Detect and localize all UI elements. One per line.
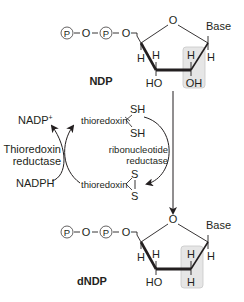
ndp-label: NDP [89, 75, 112, 87]
nadph-label: NADPH [16, 177, 55, 189]
svg-text:H: H [187, 248, 195, 260]
svg-text:P: P [103, 227, 109, 238]
nadp-plus-label: NADP+ [18, 114, 53, 126]
svg-text:H: H [137, 52, 145, 64]
svg-text:P: P [64, 227, 70, 238]
svg-text:H: H [152, 248, 160, 260]
dndp-label: dNDP [77, 275, 107, 287]
sh-bottom: SH [130, 127, 145, 139]
thioredoxin-reductase-line2: reductase [13, 155, 61, 167]
s-top: S [131, 168, 138, 180]
svg-text:OH: OH [186, 77, 203, 89]
dndp-molecule: P O P O O Base H H HO H [61, 213, 231, 288]
svg-text:HO: HO [146, 77, 163, 89]
s-bottom: S [131, 190, 138, 202]
ribonucleotide-reductase-line1: ribonucleotide [109, 144, 168, 155]
svg-text:O: O [169, 14, 178, 26]
svg-text:O: O [82, 27, 91, 39]
thioredoxin-reduced-label: thioredoxin [81, 115, 127, 126]
svg-text:H: H [207, 51, 215, 63]
svg-text:O: O [169, 213, 178, 225]
svg-text:O: O [122, 226, 131, 238]
svg-text:H: H [187, 49, 195, 61]
ribonucleotide-reduction-diagram: P O P O O Base H H HO [0, 0, 244, 302]
dndp-phosphate-chain: P O P O [61, 226, 141, 242]
ndp-base-label: Base [206, 20, 231, 32]
svg-text:H: H [207, 250, 215, 262]
svg-text:HO: HO [146, 276, 163, 288]
svg-text:H: H [152, 49, 160, 61]
ndp-molecule: P O P O O Base H H HO [61, 14, 231, 89]
dndp-base-label: Base [206, 219, 231, 231]
svg-text:P: P [64, 28, 70, 39]
sh-top: SH [130, 103, 145, 115]
svg-text:H: H [187, 276, 195, 288]
ribonucleotide-reductase-line2: reductase [126, 155, 168, 166]
svg-text:O: O [122, 27, 131, 39]
svg-text:H: H [137, 251, 145, 263]
ndp-phosphate-chain: P O P O [61, 27, 141, 43]
thioredoxin-cycle: NADP+ NADPH Thioredoxin reductase thiore… [4, 103, 170, 202]
svg-text:P: P [103, 28, 109, 39]
thioredoxin-regeneration-arrow [65, 126, 80, 183]
svg-text:O: O [82, 226, 91, 238]
thioredoxin-reductase-line1: Thioredoxin [4, 143, 61, 155]
thioredoxin-oxidized-label: thioredoxin [81, 179, 127, 190]
